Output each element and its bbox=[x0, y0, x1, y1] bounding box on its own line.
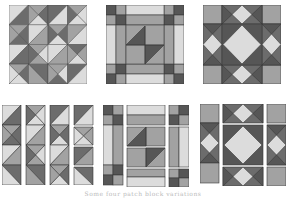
quilt-block-framed-center bbox=[106, 5, 184, 84]
figure-caption: Some four patch block variations bbox=[0, 190, 286, 197]
quilt-block-triangles-exploded bbox=[2, 105, 94, 185]
quilt-block-framed-exploded bbox=[103, 105, 189, 187]
quilt-block-star-exploded bbox=[200, 104, 286, 186]
quilt-block-star-diamond bbox=[203, 5, 281, 84]
quilt-block-triangles bbox=[9, 5, 87, 84]
